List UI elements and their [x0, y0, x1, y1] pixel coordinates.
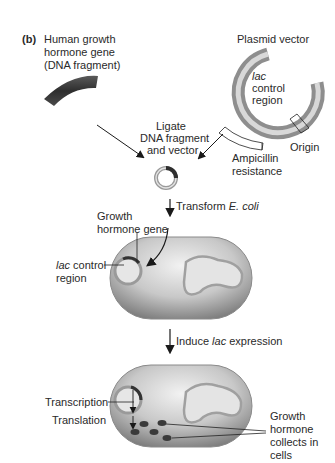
origin-label: Origin — [290, 141, 319, 154]
translation-label: Translation — [52, 414, 106, 427]
gene-fragment — [44, 76, 98, 106]
collects-line4: cells — [270, 449, 292, 462]
collects-line1: Growth — [270, 410, 305, 423]
panel-label: (b) — [22, 33, 36, 46]
transform-label: Transform E. coli — [176, 200, 259, 213]
ampicillin-label-line2: resistance — [232, 165, 282, 178]
collects-line2: hormone — [270, 423, 313, 436]
ligate-line3: and vector — [147, 144, 198, 157]
lac-region-label: region — [56, 272, 87, 285]
lac-control-label: lac control — [56, 259, 106, 272]
plasmid-title: Plasmid vector — [237, 33, 309, 46]
ampicillin-label-line1: Ampicillin — [232, 152, 278, 165]
growth-gene-line1: Growth — [97, 210, 132, 223]
gene-label-line3: (DNA fragment) — [44, 59, 120, 72]
gene-label-line1: Human growth — [44, 33, 116, 46]
transcription-label: Transcription — [45, 396, 108, 409]
collects-line3: collects in — [270, 436, 318, 449]
gene-label-line2: hormone gene — [44, 46, 115, 59]
induce-label: Induce lac expression — [176, 335, 282, 348]
growth-gene-line2: hormone gene — [97, 223, 168, 236]
plasmid-region-label: region — [252, 94, 283, 107]
